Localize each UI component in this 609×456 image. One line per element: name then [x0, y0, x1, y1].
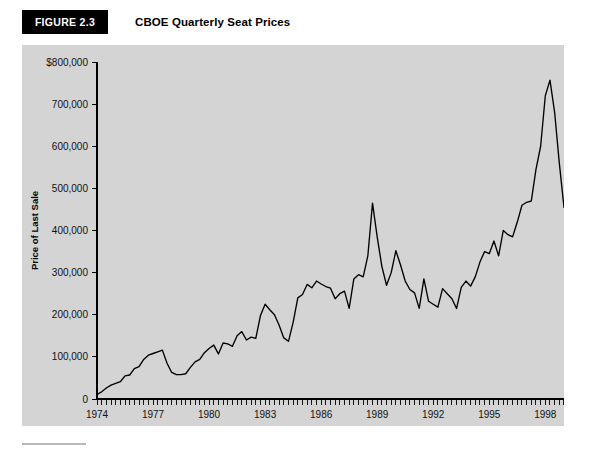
x-axis-minor-tick-marks: [97, 399, 564, 405]
x-tick-label: 1986: [310, 409, 333, 420]
figure-number-badge: FIGURE 2.3: [22, 10, 108, 34]
y-tick-label: 100,000: [52, 351, 89, 362]
chart-panel: 0100,000200,000300,000400,000500,000600,…: [22, 45, 564, 426]
y-tick-label: 200,000: [52, 309, 89, 320]
y-tick-label: 700,000: [52, 99, 89, 110]
x-tick-label: 1998: [534, 409, 557, 420]
x-tick-label: 1980: [198, 409, 221, 420]
y-axis-title: Price of Last Sale: [29, 191, 40, 270]
x-tick-label: 1983: [254, 409, 277, 420]
x-tick-label: 1989: [366, 409, 389, 420]
y-tick-label: 500,000: [52, 183, 89, 194]
x-tick-label: 1995: [478, 409, 501, 420]
figure-header: FIGURE 2.3 CBOE Quarterly Seat Prices: [22, 10, 587, 34]
y-tick-label: 600,000: [52, 141, 89, 152]
figure-title: CBOE Quarterly Seat Prices: [108, 10, 587, 34]
y-tick-label: 0: [82, 394, 88, 405]
y-axis-tick-marks: [92, 62, 97, 399]
x-axis-tick-labels: 197419771980198319861989199219951998: [86, 409, 557, 420]
footer-divider: [22, 443, 86, 445]
y-tick-label: 300,000: [52, 267, 89, 278]
line-chart: 0100,000200,000300,000400,000500,000600,…: [22, 45, 564, 426]
y-axis-tick-labels: 0100,000200,000300,000400,000500,000600,…: [46, 57, 88, 405]
x-tick-label: 1977: [142, 409, 165, 420]
y-tick-label: $800,000: [46, 57, 88, 68]
x-tick-label: 1992: [422, 409, 445, 420]
x-tick-label: 1974: [86, 409, 109, 420]
price-series-line: [97, 80, 564, 394]
y-tick-label: 400,000: [52, 225, 89, 236]
